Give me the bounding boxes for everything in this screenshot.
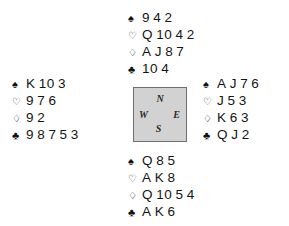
card-rank: 6 bbox=[48, 92, 56, 109]
card-rank: A bbox=[217, 75, 227, 92]
compass-label-south: S bbox=[156, 124, 162, 134]
hand-north-hearts-row: ♡ Q1042 bbox=[128, 26, 195, 43]
card-rank: 10 bbox=[142, 60, 158, 77]
hand-north-clubs-row: ♣ 104 bbox=[128, 60, 195, 77]
hand-south-diamonds-ranks: Q1054 bbox=[142, 186, 195, 203]
hand-west-diamonds-row: ♢ 92 bbox=[12, 109, 79, 126]
club-icon: ♣ bbox=[128, 204, 142, 221]
card-rank: 8 bbox=[167, 169, 175, 186]
card-rank: 10 bbox=[39, 75, 55, 92]
card-rank: 2 bbox=[164, 9, 172, 26]
club-icon: ♣ bbox=[128, 61, 142, 78]
card-rank: A bbox=[142, 169, 152, 186]
card-rank: J bbox=[217, 92, 224, 109]
card-rank: 2 bbox=[37, 109, 45, 126]
diamond-icon: ♢ bbox=[203, 110, 217, 127]
hand-east: ♠ AJ76 ♡ J53 ♢ K63 ♣ QJ2 bbox=[203, 75, 259, 143]
hand-north-hearts-ranks: Q1042 bbox=[142, 26, 195, 43]
card-rank: K bbox=[26, 75, 36, 92]
card-rank: 7 bbox=[240, 75, 248, 92]
card-rank: 4 bbox=[187, 186, 195, 203]
hand-east-hearts-row: ♡ J53 bbox=[203, 92, 259, 109]
card-rank: 4 bbox=[153, 9, 161, 26]
hand-north: ♠ 942 ♡ Q1042 ♢ AJ87 ♣ 104 bbox=[128, 9, 195, 77]
card-rank: 5 bbox=[60, 126, 68, 143]
card-rank: 10 bbox=[156, 26, 172, 43]
hand-south-clubs-row: ♣ AK6 bbox=[128, 203, 195, 220]
card-rank: A bbox=[142, 203, 152, 220]
card-rank: K bbox=[155, 203, 165, 220]
hand-south-spades-ranks: Q85 bbox=[142, 152, 175, 169]
card-rank: Q bbox=[142, 26, 153, 43]
spade-icon: ♠ bbox=[128, 10, 142, 27]
diamond-icon: ♢ bbox=[128, 187, 142, 204]
card-rank: Q bbox=[217, 126, 228, 143]
card-rank: 3 bbox=[239, 92, 247, 109]
card-rank: J bbox=[230, 75, 237, 92]
spade-icon: ♠ bbox=[203, 76, 217, 93]
hand-north-diamonds-row: ♢ AJ87 bbox=[128, 43, 195, 60]
card-rank: 7 bbox=[176, 43, 184, 60]
diamond-icon: ♢ bbox=[12, 110, 26, 127]
card-rank: 8 bbox=[156, 152, 164, 169]
card-rank: 3 bbox=[241, 109, 249, 126]
card-rank: 4 bbox=[175, 26, 183, 43]
heart-icon: ♡ bbox=[203, 93, 217, 110]
card-rank: J bbox=[231, 126, 238, 143]
hand-west-hearts-row: ♡ 976 bbox=[12, 92, 79, 109]
compass-label-north: N bbox=[156, 94, 163, 104]
card-rank: Q bbox=[142, 186, 153, 203]
card-rank: 5 bbox=[175, 186, 183, 203]
hand-south-clubs-ranks: AK6 bbox=[142, 203, 175, 220]
hand-west-diamonds-ranks: 92 bbox=[26, 109, 45, 126]
card-rank: 9 bbox=[26, 126, 34, 143]
heart-icon: ♡ bbox=[12, 93, 26, 110]
hand-east-clubs-row: ♣ QJ2 bbox=[203, 126, 259, 143]
spade-icon: ♠ bbox=[12, 76, 26, 93]
hand-south: ♠ Q85 ♡ AK8 ♢ Q1054 ♣ AK6 bbox=[128, 152, 195, 220]
card-rank: 6 bbox=[167, 203, 175, 220]
card-rank: 2 bbox=[242, 126, 250, 143]
hand-east-hearts-ranks: J53 bbox=[217, 92, 247, 109]
card-rank: 8 bbox=[37, 126, 45, 143]
card-rank: 8 bbox=[165, 43, 173, 60]
hand-north-spades-row: ♠ 942 bbox=[128, 9, 195, 26]
compass-label-west: W bbox=[139, 110, 148, 120]
hand-east-diamonds-ranks: K63 bbox=[217, 109, 249, 126]
card-rank: J bbox=[155, 43, 162, 60]
hand-west-clubs-ranks: 98753 bbox=[26, 126, 79, 143]
card-rank: 4 bbox=[161, 60, 169, 77]
hand-east-diamonds-row: ♢ K63 bbox=[203, 109, 259, 126]
card-rank: 5 bbox=[167, 152, 175, 169]
card-rank: 9 bbox=[26, 109, 34, 126]
hand-east-spades-ranks: AJ76 bbox=[217, 75, 259, 92]
hand-south-hearts-ranks: AK8 bbox=[142, 169, 175, 186]
card-rank: 3 bbox=[58, 75, 66, 92]
card-rank: 10 bbox=[156, 186, 172, 203]
hand-north-spades-ranks: 942 bbox=[142, 9, 172, 26]
card-rank: 3 bbox=[71, 126, 79, 143]
hand-north-clubs-ranks: 104 bbox=[142, 60, 169, 77]
card-rank: 9 bbox=[26, 92, 34, 109]
club-icon: ♣ bbox=[203, 127, 217, 144]
heart-icon: ♡ bbox=[128, 27, 142, 44]
hand-south-hearts-row: ♡ AK8 bbox=[128, 169, 195, 186]
hand-east-spades-row: ♠ AJ76 bbox=[203, 75, 259, 92]
hand-south-spades-row: ♠ Q85 bbox=[128, 152, 195, 169]
card-rank: 9 bbox=[142, 9, 150, 26]
hand-west-hearts-ranks: 976 bbox=[26, 92, 56, 109]
card-rank: 7 bbox=[48, 126, 56, 143]
card-rank: 7 bbox=[37, 92, 45, 109]
club-icon: ♣ bbox=[12, 127, 26, 144]
card-rank: 2 bbox=[187, 26, 195, 43]
hand-east-clubs-ranks: QJ2 bbox=[217, 126, 250, 143]
compass-label-east: E bbox=[173, 110, 180, 120]
hand-west-spades-row: ♠ K103 bbox=[12, 75, 79, 92]
hand-north-diamonds-ranks: AJ87 bbox=[142, 43, 184, 60]
hand-south-diamonds-row: ♢ Q1054 bbox=[128, 186, 195, 203]
card-rank: 5 bbox=[227, 92, 235, 109]
hand-west: ♠ K103 ♡ 976 ♢ 92 ♣ 98753 bbox=[12, 75, 79, 143]
card-rank: K bbox=[217, 109, 227, 126]
hand-west-clubs-row: ♣ 98753 bbox=[12, 126, 79, 143]
bridge-deal-diagram: ♠ 942 ♡ Q1042 ♢ AJ87 ♣ 104 ♠ K103 ♡ 976 … bbox=[0, 0, 289, 226]
